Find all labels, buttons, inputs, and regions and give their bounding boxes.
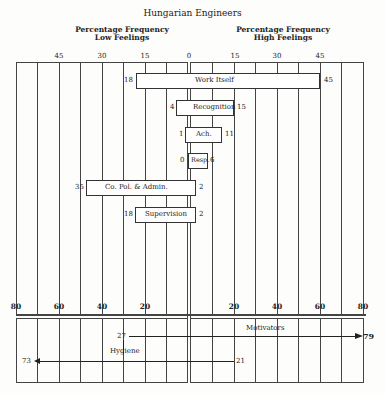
btick-left-60: 60 xyxy=(49,302,69,311)
tick-left-45: 45 xyxy=(49,52,69,60)
tick-left-15: 15 xyxy=(135,52,155,60)
right-header: Percentage Frequency High Feelings xyxy=(223,26,343,42)
tick-zero: 0 xyxy=(179,52,199,60)
left-header: Percentage Frequency Low Feelings xyxy=(62,26,182,42)
btick-left-20: 20 xyxy=(135,302,155,311)
btick-right-60: 60 xyxy=(310,302,330,311)
btick-right-20: 20 xyxy=(224,302,244,311)
btick-left-40: 40 xyxy=(92,302,112,311)
btick-left-80: 80 xyxy=(6,302,26,311)
tick-left-30: 30 xyxy=(92,52,112,60)
btick-right-40: 40 xyxy=(267,302,287,311)
tick-right-15: 15 xyxy=(225,52,245,60)
tick-right-45: 45 xyxy=(310,52,330,60)
left-header-line2: Low Feelings xyxy=(62,34,182,42)
chart-title: Hungarian Engineers xyxy=(0,8,385,18)
right-header-line2: High Feelings xyxy=(223,34,343,42)
btick-right-80: 80 xyxy=(353,302,373,311)
tick-right-30: 30 xyxy=(267,52,287,60)
